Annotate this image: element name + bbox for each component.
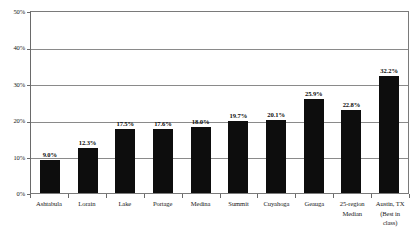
x-axis-tick [144, 194, 145, 198]
y-tick-label-0: 0% [17, 191, 25, 198]
x-axis-tick [30, 194, 31, 198]
bar[interactable]: 9.0% [40, 160, 60, 193]
x-axis-tick [106, 194, 107, 198]
bar-slot: 20.1% [257, 12, 295, 193]
bar-value-label: 17.6% [154, 121, 172, 128]
bar-slot: 32.2% [370, 12, 408, 193]
bar-slot: 19.7% [220, 12, 258, 193]
bar-slot: 25.9% [295, 12, 333, 193]
x-axis-tick [68, 194, 69, 198]
y-tick-label-10: 10% [13, 155, 25, 162]
x-axis-category-label: Cuyahoga [257, 199, 295, 228]
bar[interactable]: 22.8% [341, 110, 361, 193]
bar[interactable]: 12.3% [78, 148, 98, 193]
bar[interactable]: 18.0% [191, 127, 211, 193]
bar-value-label: 20.1% [267, 112, 285, 119]
x-axis-tick [409, 194, 410, 198]
x-axis-category-label: Portage [144, 199, 182, 228]
bar-slot: 9.0% [31, 12, 69, 193]
y-tick-label-20: 20% [13, 118, 25, 125]
x-axis-tick [220, 194, 221, 198]
x-axis-category-label-line: Median [334, 209, 370, 219]
bar[interactable]: 17.5% [115, 129, 135, 193]
bar-slot: 12.3% [69, 12, 107, 193]
x-axis-tick [182, 194, 183, 198]
x-axis-category-label-line: Austin, TX [372, 199, 408, 209]
bar-slot: 22.8% [333, 12, 371, 193]
x-axis-category-label-line: Ashtabula [31, 199, 67, 209]
x-axis-tick-group [30, 194, 409, 198]
bar-slot: 17.6% [144, 12, 182, 193]
bar-value-label: 19.7% [230, 113, 248, 120]
bar-value-label: 12.3% [79, 140, 97, 147]
x-axis-category-label-line: Portage [145, 199, 181, 209]
y-axis-label-group: 50% 40% 30% 20% 10% 0% [0, 0, 28, 249]
x-axis-label-group: AshtabulaLorainLakePortageMedinaSummitCu… [30, 199, 409, 228]
bar[interactable]: 17.6% [153, 129, 173, 193]
x-axis-category-label: Ashtabula [30, 199, 68, 228]
x-axis-tick [371, 194, 372, 198]
bar-value-label: 22.8% [343, 102, 361, 109]
bar[interactable]: 19.7% [228, 121, 248, 193]
x-axis-tick [333, 194, 334, 198]
bars-group: 9.0%12.3%17.5%17.6%18.0%19.7%20.1%25.9%2… [31, 12, 408, 193]
x-axis-category-label: Summit [220, 199, 258, 228]
bar-value-label: 32.2% [380, 68, 398, 75]
y-tick-label-30: 30% [13, 81, 25, 88]
bar-slot: 18.0% [182, 12, 220, 193]
x-axis-category-label-line: Lorain [69, 199, 105, 209]
x-axis-category-label: Medina [182, 199, 220, 228]
y-tick-label-50: 50% [13, 8, 25, 15]
bar[interactable]: 32.2% [379, 76, 399, 193]
plot-area: 9.0%12.3%17.5%17.6%18.0%19.7%20.1%25.9%2… [30, 11, 409, 194]
x-axis-category-label-line: Cuyahoga [258, 199, 294, 209]
x-axis-tick [295, 194, 296, 198]
y-tick-label-40: 40% [13, 45, 25, 52]
x-axis-category-label-line: Geauga [296, 199, 332, 209]
x-axis-category-label: Geauga [295, 199, 333, 228]
x-axis-category-label-line: (Best in [372, 209, 408, 219]
bar-value-label: 18.0% [192, 119, 210, 126]
bar[interactable]: 20.1% [266, 120, 286, 193]
bar-value-label: 17.5% [116, 121, 134, 128]
x-axis-category-label: 25-regionMedian [333, 199, 371, 228]
x-axis-category-label: Lorain [68, 199, 106, 228]
x-axis-tick [257, 194, 258, 198]
x-axis-category-label: Austin, TX(Best inclass) [371, 199, 409, 228]
bar[interactable]: 25.9% [304, 99, 324, 193]
x-axis-category-label-line: Lake [107, 199, 143, 209]
x-axis-category-label-line: Summit [221, 199, 257, 209]
bar-value-label: 9.0% [43, 152, 57, 159]
x-axis-category-label-line: 25-region [334, 199, 370, 209]
bar-chart: 50% 40% 30% 20% 10% 0% 9.0%12.3%17.5%17.… [0, 0, 416, 249]
x-axis-category-label-line: Medina [183, 199, 219, 209]
bar-value-label: 25.9% [305, 91, 323, 98]
bar-slot: 17.5% [106, 12, 144, 193]
x-axis-category-label: Lake [106, 199, 144, 228]
x-axis-category-label-line: class) [372, 218, 408, 228]
